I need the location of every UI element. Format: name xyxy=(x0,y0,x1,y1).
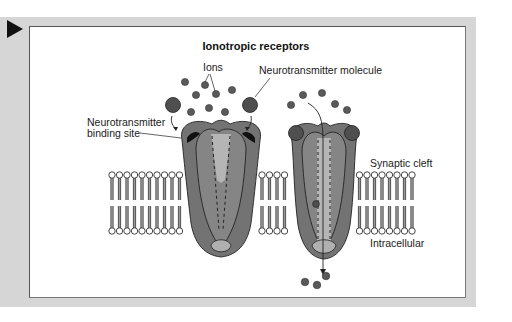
ions-intracellular xyxy=(301,272,330,289)
lipid-bilayer-membrane xyxy=(109,172,415,234)
bound-neurotransmitter-left xyxy=(289,126,304,141)
right-receptor xyxy=(289,103,360,275)
binding-site-label-line2: binding site xyxy=(87,128,140,139)
diagram-title: Ionotropic receptors xyxy=(0,40,512,52)
ions-label: Ions xyxy=(203,62,223,73)
bound-neurotransmitter-right xyxy=(345,126,360,141)
neurotransmitter-molecule-label: Neurotransmitter molecule xyxy=(259,65,382,76)
intracellular-label: Intracellular xyxy=(370,238,424,249)
synaptic-cleft-label: Synaptic cleft xyxy=(370,158,432,169)
ions-right-top xyxy=(287,89,350,113)
left-receptor xyxy=(181,120,260,257)
